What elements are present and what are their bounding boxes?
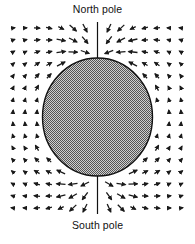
field-arrow-icon [179, 28, 183, 29]
field-arrow-icon [167, 171, 170, 173]
field-arrow-icon [34, 196, 40, 197]
field-arrow-icon [24, 134, 25, 138]
field-arrow-icon [81, 182, 89, 186]
field-arrow-icon [142, 183, 148, 184]
field-arrow-icon [57, 51, 66, 52]
field-arrow-icon [168, 98, 169, 102]
field-arrow-icon [24, 75, 27, 78]
field-arrow-icon [155, 62, 160, 65]
field-arrow-icon [57, 184, 66, 185]
field-arrow-icon [81, 51, 89, 54]
field-arrow-icon [179, 171, 182, 174]
field-arrow-icon [117, 194, 125, 199]
field-arrow-icon [154, 28, 160, 29]
field-arrow-icon [35, 74, 39, 78]
field-arrow-icon [11, 39, 15, 40]
field-arrow-icon [155, 158, 159, 162]
field-arrow-icon [57, 62, 65, 66]
field-arrow-icon [57, 195, 66, 197]
field-arrow-icon [167, 183, 171, 185]
field-arrow-icon [142, 207, 148, 209]
field-arrow-icon [181, 98, 182, 102]
field-arrow-icon [142, 171, 147, 174]
field-arrow-icon [34, 208, 40, 209]
field-arrow-icon [143, 158, 147, 162]
field-arrow-icon [129, 39, 138, 41]
field-arrow-icon [12, 63, 15, 66]
field-arrow-icon [180, 74, 182, 77]
field-arrow-icon [57, 170, 65, 174]
field-arrow-icon [106, 192, 111, 199]
field-arrow-icon [11, 28, 15, 29]
south-pole-label: South pole [0, 219, 195, 231]
field-arrow-icon [69, 194, 77, 198]
field-arrow-icon [24, 146, 26, 149]
field-arrow-icon [23, 40, 27, 41]
field-arrow-icon [83, 24, 87, 32]
field-arrow-icon [47, 158, 51, 162]
field-arrow-icon [24, 86, 26, 90]
field-arrow-icon [156, 98, 157, 102]
field-arrow-icon [13, 98, 14, 102]
field-arrow-icon [36, 134, 37, 138]
field-arrow-icon [142, 63, 147, 66]
field-arrow-icon [118, 205, 124, 211]
field-arrow-icon [154, 170, 159, 173]
field-arrow-icon [34, 40, 40, 41]
field-arrow-icon [34, 170, 39, 173]
field-arrow-icon [69, 183, 78, 184]
field-arrow-icon [12, 159, 15, 162]
field-arrow-icon [168, 159, 171, 162]
field-arrow-icon [154, 208, 160, 209]
field-arrow-icon [23, 196, 27, 197]
field-arrow-icon [117, 38, 125, 42]
field-arrow-icon [12, 74, 14, 77]
field-arrow-icon [130, 27, 135, 30]
field-arrow-icon [11, 183, 15, 185]
field-arrow-icon [180, 146, 182, 150]
field-arrow-icon [11, 208, 15, 209]
field-arrow-icon [23, 51, 27, 53]
field-arrow-icon [107, 24, 111, 32]
field-arrow-icon [168, 86, 170, 90]
field-arrow-icon [154, 51, 160, 53]
field-arrow-icon [142, 51, 148, 52]
field-arrow-icon [70, 25, 77, 31]
field-arrow-icon [129, 52, 138, 53]
field-arrow-icon [69, 38, 77, 42]
field-arrow-icon [47, 74, 51, 78]
field-arrow-icon [156, 134, 157, 138]
field-arrow-icon [129, 195, 138, 197]
field-arrow-icon [130, 207, 135, 210]
field-arrow-icon [36, 98, 37, 102]
field-arrow-icon [117, 52, 126, 53]
field-arrow-icon [35, 145, 38, 150]
field-arrow-icon [167, 51, 171, 53]
field-arrow-icon [12, 146, 14, 150]
field-arrow-icon [11, 51, 14, 53]
field-arrow-icon [11, 195, 15, 196]
field-arrow-icon [179, 39, 183, 40]
field-arrow-icon [117, 183, 126, 184]
field-arrow-icon [46, 51, 52, 52]
field-arrow-icon [167, 40, 171, 41]
field-arrow-icon [129, 170, 137, 174]
field-arrow-icon [168, 75, 171, 78]
field-arrow-icon [23, 63, 26, 65]
sphere [43, 58, 153, 176]
field-arrow-icon [34, 51, 40, 53]
field-arrow-icon [106, 36, 111, 43]
field-arrow-icon [168, 146, 170, 149]
field-arrow-icon [179, 195, 183, 196]
field-arrow-icon [24, 159, 27, 162]
field-arrow-icon [129, 62, 137, 66]
field-arrow-icon [180, 134, 181, 138]
field-arrow-icon [83, 204, 87, 212]
field-arrow-icon [70, 205, 77, 211]
field-arrow-icon [24, 98, 25, 102]
field-arrow-icon [167, 196, 171, 197]
field-arrow-icon [46, 171, 51, 174]
field-arrow-icon [156, 85, 159, 90]
field-arrow-icon [107, 204, 111, 212]
field-arrow-icon [155, 145, 158, 150]
